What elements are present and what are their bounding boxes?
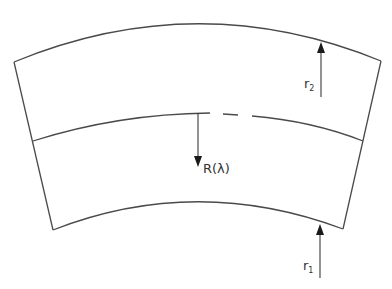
middle-arc-dash xyxy=(223,114,238,115)
r2-subscript: 2 xyxy=(309,84,314,93)
r1-label: r1 xyxy=(303,258,313,275)
r1-subscript: 1 xyxy=(308,266,313,275)
r-lambda-label: R(λ) xyxy=(203,161,230,176)
r1-arrow xyxy=(316,224,324,278)
outer-arc xyxy=(14,24,381,62)
arrowhead-up-icon xyxy=(316,224,324,235)
annular-sector-diagram: r2 R(λ) r1 xyxy=(0,0,392,289)
r2-arrow xyxy=(317,42,325,97)
arrowhead-up-icon xyxy=(317,42,325,53)
r2-label: r2 xyxy=(304,76,314,93)
arrowhead-down-icon xyxy=(194,156,202,167)
inner-arc xyxy=(53,202,343,230)
r-lambda-arrow xyxy=(194,113,202,167)
middle-arc-right xyxy=(252,116,363,141)
left-side-edge xyxy=(14,62,53,230)
middle-arc-left xyxy=(33,113,210,141)
right-side-edge xyxy=(343,61,381,229)
